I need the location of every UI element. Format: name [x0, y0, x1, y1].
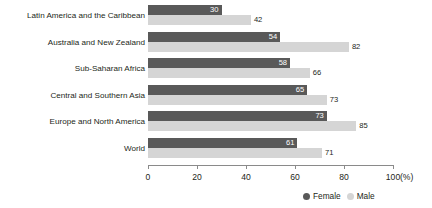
category-label: World — [0, 136, 145, 161]
bar-group: 7385 — [148, 109, 432, 134]
bar-group: 5482 — [148, 30, 432, 55]
category-label: Australia and New Zealand — [0, 30, 145, 55]
category-label: Central and Southern Asia — [0, 83, 145, 108]
bar-group: 3042 — [148, 3, 432, 28]
bar-group: 6171 — [148, 136, 432, 161]
axis-tick — [295, 165, 296, 169]
bar-value-label: 30 — [148, 5, 219, 15]
axis-tick — [197, 165, 198, 169]
bar-value-label: 66 — [313, 68, 321, 78]
chart-group-row: Latin America and the Caribbean3042 — [0, 3, 432, 28]
plot-area: Latin America and the Caribbean3042Austr… — [0, 0, 432, 165]
x-axis-unit-label: (%) — [400, 172, 413, 182]
axis-tick-label: 20 — [192, 172, 202, 182]
bar-group: 6573 — [148, 83, 432, 108]
legend-swatch-circle-icon — [303, 193, 310, 200]
bar-male — [148, 95, 327, 105]
bar-group: 5866 — [148, 56, 432, 81]
chart-group-row: World6171 — [0, 136, 432, 161]
chart-group-row: Central and Southern Asia6573 — [0, 83, 432, 108]
bar-value-label: 42 — [254, 15, 262, 25]
axis-tick — [393, 165, 394, 169]
bar-value-label: 65 — [148, 85, 304, 95]
bar-chart: Latin America and the Caribbean3042Austr… — [0, 0, 432, 208]
chart-group-row: Sub-Saharan Africa5866 — [0, 56, 432, 81]
bar-value-label: 71 — [325, 148, 333, 158]
bar-value-label: 73 — [330, 95, 338, 105]
legend-item-female[interactable]: Female — [303, 191, 341, 201]
bar-male — [148, 121, 356, 131]
bar-male — [148, 148, 322, 158]
category-label: Latin America and the Caribbean — [0, 3, 145, 28]
axis-tick — [246, 165, 247, 169]
chart-group-row: Europe and North America7385 — [0, 109, 432, 134]
bar-value-label: 58 — [148, 58, 287, 68]
bar-male — [148, 42, 349, 52]
bar-value-label: 82 — [352, 42, 360, 52]
category-label: Sub-Saharan Africa — [0, 56, 145, 81]
bar-value-label: 54 — [148, 32, 277, 42]
legend-label: Male — [357, 191, 375, 201]
legend-item-male[interactable]: Male — [347, 191, 375, 201]
chart-legend: FemaleMale — [303, 190, 375, 202]
axis-tick — [344, 165, 345, 169]
axis-tick — [148, 165, 149, 169]
axis-tick-label: 80 — [339, 172, 349, 182]
axis-tick-label: 40 — [241, 172, 251, 182]
axis-tick-label: 60 — [290, 172, 300, 182]
legend-swatch-circle-icon — [347, 193, 354, 200]
bar-value-label: 85 — [359, 121, 367, 131]
bar-male — [148, 68, 310, 78]
x-axis-line — [148, 165, 393, 166]
category-label: Europe and North America — [0, 109, 145, 134]
chart-group-row: Australia and New Zealand5482 — [0, 30, 432, 55]
bar-value-label: 61 — [148, 138, 294, 148]
legend-label: Female — [313, 191, 341, 201]
axis-tick-label: 100 — [386, 172, 400, 182]
bar-male — [148, 15, 251, 25]
axis-tick-label: 0 — [146, 172, 151, 182]
bar-value-label: 73 — [148, 111, 324, 121]
